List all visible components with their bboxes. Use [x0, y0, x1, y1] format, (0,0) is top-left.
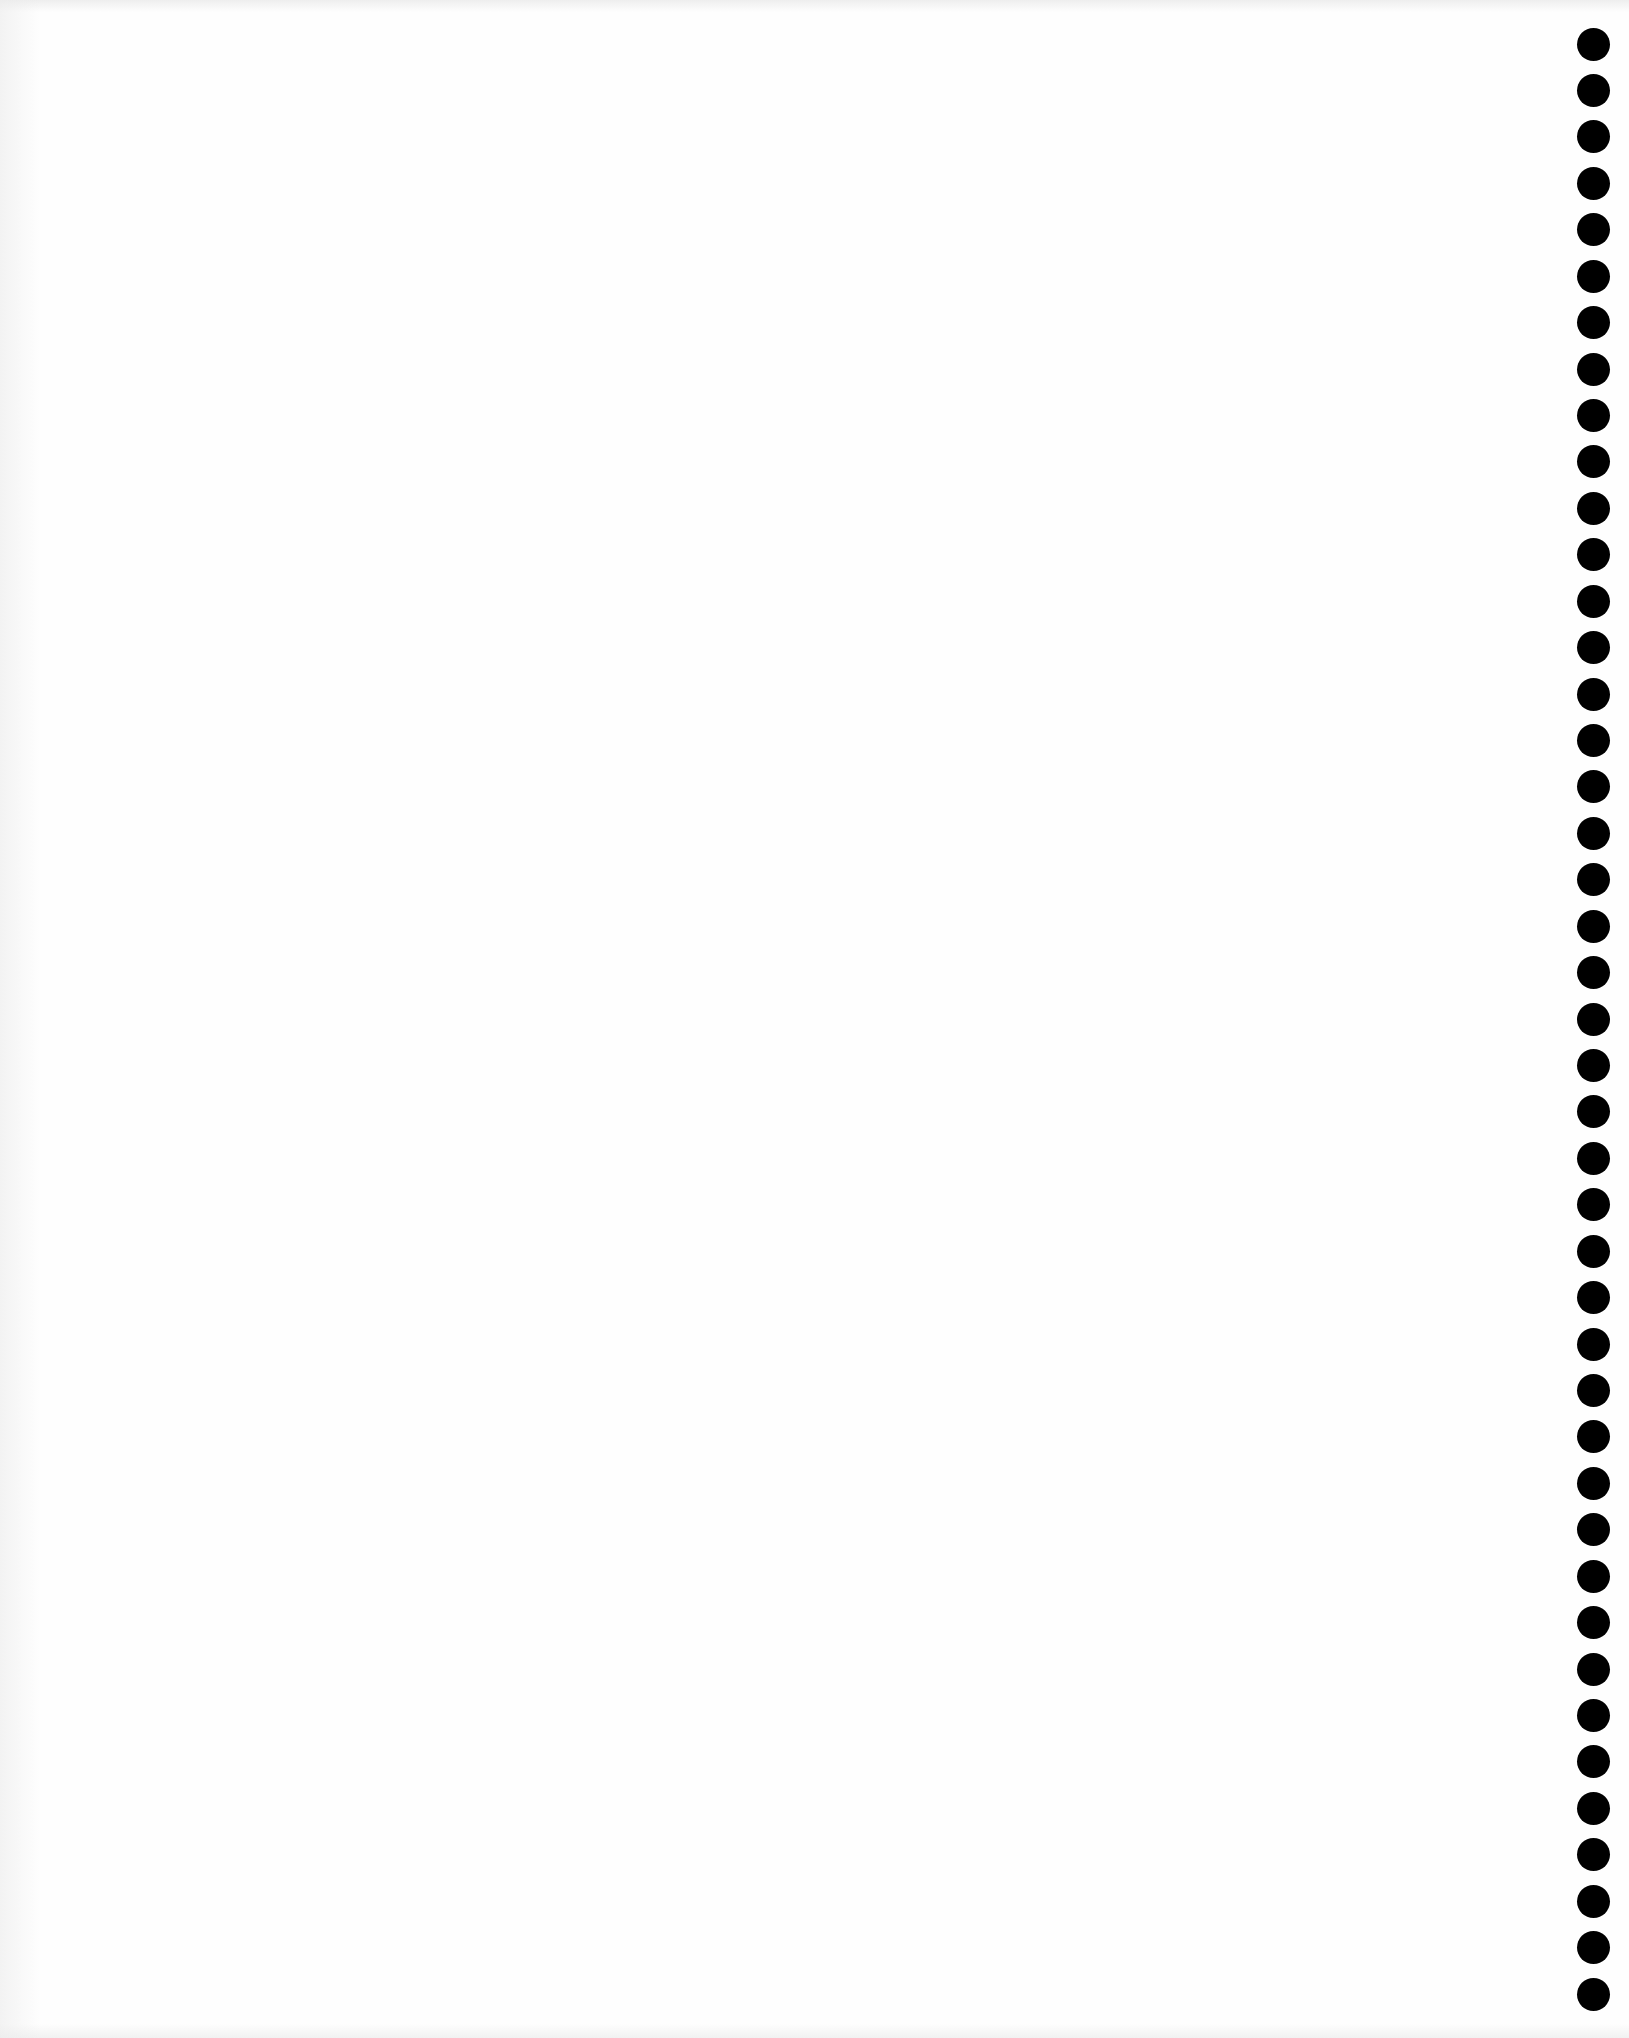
binding-hole-icon [1577, 1699, 1610, 1732]
binding-hole-icon [1577, 1003, 1610, 1036]
binding-hole-icon [1577, 678, 1610, 711]
binding-hole-icon [1577, 538, 1610, 571]
binding-hole-icon [1577, 1560, 1610, 1593]
binding-hole-icon [1577, 1281, 1610, 1314]
binding-hole-icon [1577, 1606, 1610, 1639]
binding-hole-icon [1577, 1513, 1610, 1546]
binding-hole-icon [1577, 910, 1610, 943]
binding-hole-icon [1577, 631, 1610, 664]
binding-hole-icon [1577, 353, 1610, 386]
binding-hole-icon [1577, 1653, 1610, 1686]
binding-hole-icon [1577, 1838, 1610, 1871]
binding-hole-icon [1577, 1095, 1610, 1128]
binding-hole-icon [1577, 1467, 1610, 1500]
binding-hole-icon [1577, 445, 1610, 478]
binding-hole-icon [1577, 28, 1610, 61]
binding-hole-icon [1577, 1792, 1610, 1825]
binding-hole-icon [1577, 120, 1610, 153]
binding-hole-icon [1577, 956, 1610, 989]
binding-hole-icon [1577, 1188, 1610, 1221]
binding-hole-icon [1577, 724, 1610, 757]
binding-hole-icon [1577, 306, 1610, 339]
binding-hole-icon [1577, 863, 1610, 896]
binding-hole-icon [1577, 167, 1610, 200]
binding-hole-icon [1577, 1142, 1610, 1175]
binding-hole-icon [1577, 492, 1610, 525]
binding-hole-icon [1577, 260, 1610, 293]
binding-hole-icon [1577, 585, 1610, 618]
binding-hole-icon [1577, 74, 1610, 107]
binding-hole-icon [1577, 1745, 1610, 1778]
blank-document-page [0, 0, 1629, 2038]
binding-hole-icon [1577, 213, 1610, 246]
binding-hole-icon [1577, 1235, 1610, 1268]
binding-hole-icon [1577, 1931, 1610, 1964]
binding-hole-icon [1577, 817, 1610, 850]
binding-hole-icon [1577, 1885, 1610, 1918]
binding-hole-icon [1577, 1420, 1610, 1453]
binding-hole-icon [1577, 399, 1610, 432]
binding-hole-icon [1577, 1328, 1610, 1361]
binding-holes-column [1577, 0, 1611, 2038]
binding-hole-icon [1577, 1374, 1610, 1407]
binding-hole-icon [1577, 1049, 1610, 1082]
binding-hole-icon [1577, 1978, 1610, 2011]
binding-hole-icon [1577, 770, 1610, 803]
